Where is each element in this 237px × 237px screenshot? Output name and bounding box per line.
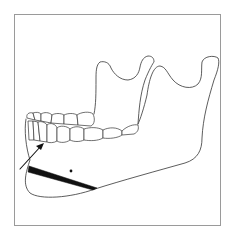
wedge-marker [28,166,97,190]
arrow-icon [20,143,44,169]
figure-canvas [0,0,237,237]
mandible-diagram [0,0,237,237]
dot-marker [70,170,73,173]
ramus-far-side [94,56,154,124]
